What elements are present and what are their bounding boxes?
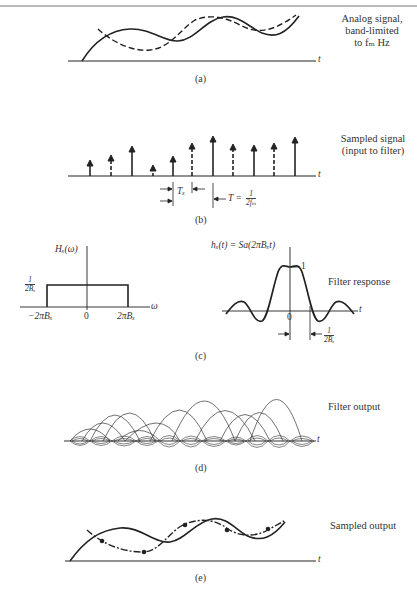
sinc-lobe: [150, 410, 207, 441]
panel-a-label-line: to fₘ Hz: [332, 37, 412, 49]
rect-filter-spectrum: [47, 285, 128, 307]
panel-e-axis-label: t: [318, 554, 321, 564]
t-label: T =: [228, 193, 242, 203]
panel-b-label: Sampled signal (input to filter): [330, 133, 416, 157]
impulse: [251, 145, 257, 176]
panel-a-caption: (a): [195, 73, 206, 84]
impulse: [129, 146, 135, 176]
panel-c-caption: (c): [195, 350, 206, 361]
impulse: [87, 160, 93, 176]
t-dimension: [213, 183, 226, 208]
tick-2pi-bx: 2πBₓ: [117, 311, 135, 321]
panel-d-axis-label: t: [317, 434, 320, 444]
sinc-lobe: [172, 401, 235, 441]
zero-label: 0: [287, 312, 292, 322]
filter-output-label: Filter output: [328, 401, 416, 413]
width-dimension: [278, 332, 322, 336]
width-den: 2Bₓ: [324, 336, 334, 344]
panel-d-caption: (d): [195, 462, 207, 473]
impulse: [189, 143, 195, 176]
figure-canvas: [0, 0, 417, 599]
panel-b-plot: [68, 136, 316, 208]
sampled-output-label: Sampled output: [330, 520, 417, 532]
sinc-lobe: [250, 400, 302, 442]
t-fraction-den: 2fₘ: [246, 199, 256, 207]
tx-label: Tₓ: [177, 186, 185, 196]
sinc-lobe: [195, 411, 255, 442]
impulse: [292, 137, 298, 176]
panel-a-label-line: band-limited: [332, 25, 412, 37]
sinc-lobe: [235, 413, 283, 442]
panel-d-plot: [64, 400, 316, 448]
width-fraction: 1 2Bₓ: [324, 327, 334, 344]
panel-c-left-plot: [20, 246, 150, 310]
impulse: [230, 144, 236, 176]
panel-b-axis-label: t: [318, 169, 321, 179]
panel-b-caption: (b): [195, 214, 207, 225]
peak-label: 1: [301, 261, 306, 271]
tick-neg-2pi-bx: −2πBₓ: [28, 311, 52, 321]
omega-axis-label: ω: [151, 301, 158, 311]
panel-b-label-line: Sampled signal: [330, 133, 416, 145]
filter-response-label: Filter response: [328, 276, 416, 288]
panel-a-plot: [68, 15, 316, 61]
filter-height-den: 2Bₓ: [25, 285, 35, 293]
impulse: [150, 165, 156, 176]
filter-height-fraction: 1 2Bₓ: [25, 276, 35, 293]
tick-zero: 0: [84, 311, 89, 321]
panel-a-label-line: Analog signal,: [332, 13, 412, 25]
panel-a-label: Analog signal, band-limited to fₘ Hz: [332, 13, 412, 49]
panel-c-right-axis-label: t: [359, 304, 362, 314]
panel-b-label-line: (input to filter): [330, 145, 416, 157]
t-fraction: 1 2fₘ: [246, 190, 256, 207]
sinc-lobe: [82, 423, 125, 441]
impulse: [210, 136, 216, 176]
panel-c-right-plot: [222, 247, 358, 340]
panel-a-axis-label: t: [318, 54, 321, 64]
panel-e-plot: [65, 519, 316, 561]
impulse: [108, 155, 114, 176]
panel-e-caption: (e): [195, 572, 206, 583]
impulse: [170, 156, 176, 176]
impulse: [271, 143, 277, 176]
hx-t-title: hₓ(t) = Sa(2πBₓt): [211, 240, 275, 250]
panel-a-solid-signal: [82, 16, 299, 61]
hx-omega-title: Hₓ(ω): [55, 244, 78, 254]
